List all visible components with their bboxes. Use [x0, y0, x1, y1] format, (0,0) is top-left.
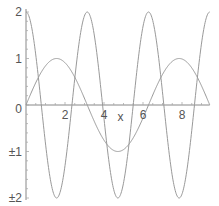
x-tick-label: 2 [62, 108, 69, 122]
x-tick-label: 4 [101, 108, 108, 122]
y-tick-label: ±2 [9, 191, 23, 205]
y-tick-label: ±1 [9, 145, 23, 159]
x-tick-label: 8 [179, 108, 186, 122]
x-axis-label: x [118, 110, 124, 124]
axes [26, 9, 210, 200]
y-tick-label: 1 [15, 52, 22, 66]
x-tick-label: 6 [140, 108, 147, 122]
plot: 2468x210±1±2 [0, 0, 219, 206]
y-tick-label: 0 [15, 102, 22, 116]
y-tick-label: 2 [15, 5, 22, 19]
